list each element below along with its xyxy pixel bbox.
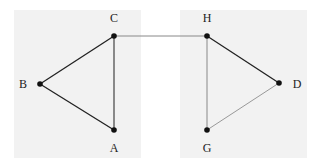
panel-left [14,10,141,158]
node-c [111,33,117,39]
background-panels [14,10,307,158]
panel-right [180,10,307,158]
node-label-g: G [203,141,212,155]
node-h [204,33,210,39]
graph-diagram: CBAHDG [0,0,319,164]
node-label-b: B [19,77,27,91]
node-label-h: H [203,11,212,25]
node-label-c: C [110,11,118,25]
node-g [204,127,210,133]
node-label-a: A [110,141,119,155]
node-b [37,81,43,87]
node-label-d: D [293,77,302,91]
node-a [111,127,117,133]
node-d [276,80,282,86]
